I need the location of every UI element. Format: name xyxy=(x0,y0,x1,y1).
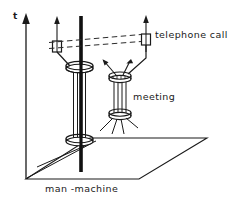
ground-plane-diagonal xyxy=(27,141,96,178)
time-axis-label: t xyxy=(13,11,18,21)
meeting-incoming-lines xyxy=(100,118,138,134)
figure-canvas: t telephone call meeting man -machine xyxy=(0,0,229,201)
ground-plane xyxy=(26,138,207,179)
telephone-link xyxy=(49,35,141,49)
meeting-label: meeting xyxy=(133,91,175,102)
telephone-call-label: telephone call xyxy=(155,29,228,40)
time-axis xyxy=(22,13,30,179)
telephone-box-left xyxy=(53,16,62,52)
telephone-left-connector xyxy=(57,52,70,66)
man-machine-label: man -machine xyxy=(45,183,118,194)
